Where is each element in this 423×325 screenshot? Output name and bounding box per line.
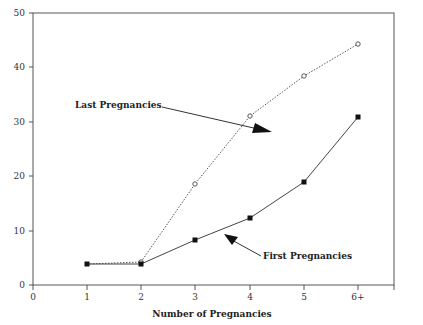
annotation-label: First Pregnancies — [263, 251, 352, 261]
data-point — [356, 42, 360, 46]
annotation-label: Last Pregnancies — [75, 100, 162, 110]
data-point — [248, 216, 253, 221]
data-point — [302, 180, 307, 185]
x-axis: 0 1 2 3 4 5 6+ Number of Pregnancies — [30, 285, 394, 319]
plot-frame — [33, 13, 394, 285]
data-point — [85, 262, 90, 267]
x-tick-label: 1 — [84, 292, 90, 302]
x-tick-label: 2 — [138, 292, 144, 302]
data-point — [356, 115, 361, 120]
y-tick-label: 50 — [14, 8, 26, 18]
data-point — [193, 182, 197, 186]
x-axis-title: Number of Pregnancies — [152, 309, 271, 319]
x-tick-label: 4 — [247, 292, 253, 302]
x-tick-label: 6+ — [351, 292, 364, 302]
data-point — [193, 238, 198, 243]
y-axis: 0 10 20 30 40 50 — [14, 8, 33, 290]
annotation-first-pregnancies: First Pregnancies — [224, 234, 352, 261]
series-first-pregnancies — [85, 115, 361, 267]
data-point — [248, 114, 252, 118]
arrow-line — [162, 107, 258, 129]
x-tick-label: 0 — [30, 292, 36, 302]
arrow-head-icon — [224, 234, 238, 245]
y-tick-label: 10 — [14, 226, 26, 236]
y-tick-label: 40 — [14, 62, 26, 72]
x-tick-label: 3 — [192, 292, 198, 302]
data-point — [302, 74, 306, 78]
series-last-pregnancies — [87, 42, 360, 264]
y-tick-label: 0 — [19, 280, 25, 290]
annotation-last-pregnancies: Last Pregnancies — [75, 100, 272, 133]
line-chart: 0 10 20 30 40 50 0 1 2 3 4 5 6+ Number o… — [0, 0, 423, 325]
arrow-head-icon — [252, 123, 272, 133]
y-tick-label: 30 — [14, 117, 26, 127]
data-point — [139, 262, 144, 267]
y-tick-label: 20 — [14, 171, 26, 181]
x-tick-label: 5 — [301, 292, 307, 302]
arrow-line — [230, 239, 261, 256]
